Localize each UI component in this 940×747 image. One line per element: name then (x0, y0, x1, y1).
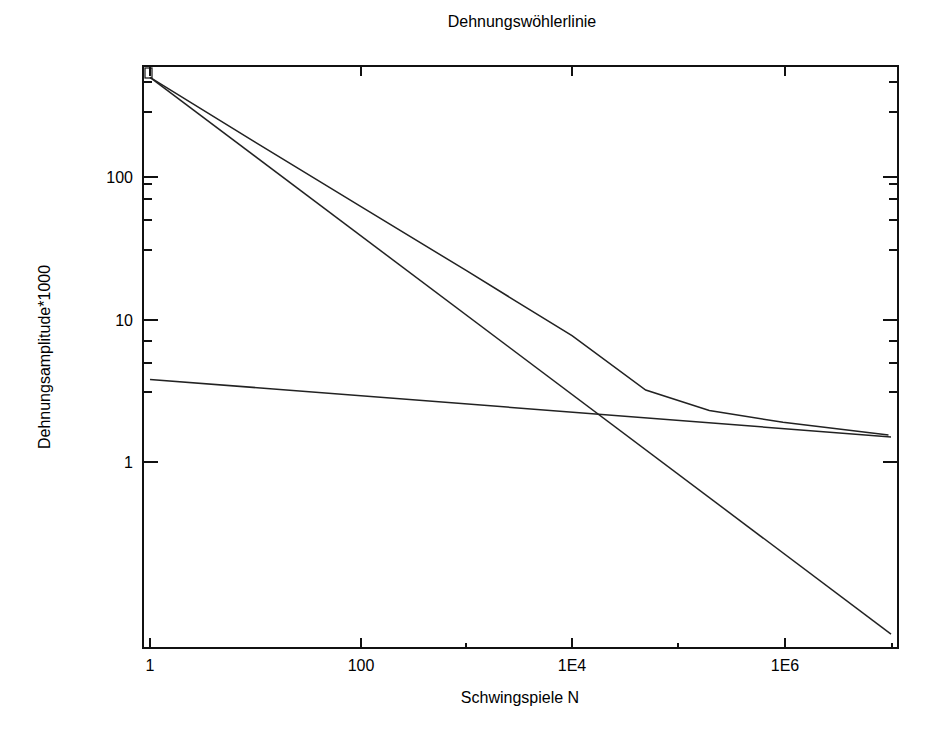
strain-life-chart: Dehnungswöhlerlinie (0, 0, 940, 747)
y-tick-label: 1 (124, 454, 133, 471)
series-plastic-strain (150, 77, 891, 634)
y-axis-ticks (143, 82, 898, 462)
x-tick-label: 100 (348, 657, 375, 674)
series-elastic-strain (150, 379, 891, 437)
y-tick-label: 100 (106, 169, 133, 186)
plot-frame (143, 66, 898, 648)
x-tick-label: 1 (146, 657, 155, 674)
y-tick-labels: 100 10 1 (106, 169, 133, 471)
x-axis-label: Schwingspiele N (461, 689, 579, 706)
series-total-strain (150, 77, 889, 435)
y-axis-label: Dehnungsamplitude*1000 (36, 265, 53, 449)
chart-title: Dehnungswöhlerlinie (448, 13, 597, 30)
x-tick-labels: 1 100 1E4 1E6 (146, 657, 800, 674)
x-tick-label: 1E6 (771, 657, 800, 674)
x-tick-label: 1E4 (558, 657, 587, 674)
y-tick-label: 10 (115, 312, 133, 329)
series-lines (150, 77, 891, 634)
